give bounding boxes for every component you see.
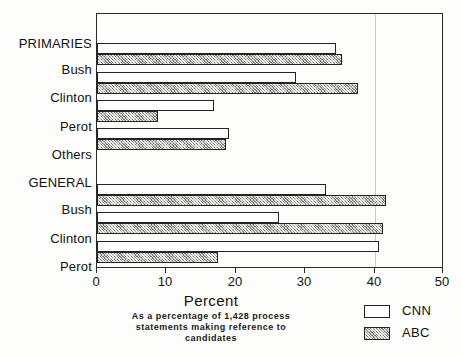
y-label-primaries-perot: Perot (0, 120, 92, 134)
x-ticklabel-10: 10 (145, 274, 185, 289)
bar-primaries-perot-abc (97, 111, 158, 122)
bar-primaries-others-cnn (97, 128, 229, 139)
y-label-general-bush: Bush (0, 203, 92, 217)
x-tick-20 (235, 268, 236, 273)
bar-general-perot-cnn (97, 241, 379, 252)
bar-primaries-bush-cnn (97, 43, 336, 54)
bar-general-bush-cnn (97, 184, 326, 195)
x-ticklabel-30: 30 (284, 274, 324, 289)
legend-swatch-cnn-icon (364, 305, 390, 318)
bar-general-perot-abc (97, 252, 218, 263)
x-tick-30 (304, 268, 305, 273)
legend-label-cnn: CNN (402, 304, 431, 318)
bar-general-clinton-abc (97, 223, 383, 234)
chart-legend: CNN ABC (364, 300, 459, 344)
chart-caption: As a percentage of 1,428 process stateme… (86, 311, 336, 344)
caption-line-3: candidates (86, 333, 336, 344)
y-label-general-perot: Perot (0, 260, 92, 274)
bar-primaries-clinton-abc (97, 83, 358, 94)
x-ticklabel-50: 50 (422, 274, 461, 289)
x-axis: 0 10 20 30 40 50 (96, 268, 443, 274)
x-ticklabel-40: 40 (354, 274, 394, 289)
bar-primaries-others-abc (97, 139, 226, 150)
y-label-primaries-header: PRIMARIES (0, 37, 92, 51)
caption-line-1: As a percentage of 1,428 process (86, 311, 336, 322)
bar-primaries-perot-cnn (97, 100, 214, 111)
x-axis-title: Percent (96, 292, 326, 309)
x-tick-0 (96, 268, 97, 273)
y-label-general-header: GENERAL (0, 176, 92, 190)
chart-figure: PRIMARIES Bush Clinton Perot Others GENE… (0, 0, 461, 356)
x-tick-40 (374, 268, 375, 273)
legend-item-cnn: CNN (364, 300, 459, 322)
bar-primaries-bush-abc (97, 54, 342, 65)
legend-swatch-abc-icon (364, 327, 390, 340)
bar-general-clinton-cnn (97, 212, 279, 223)
y-label-primaries-bush: Bush (0, 63, 92, 77)
y-label-general-clinton: Clinton (0, 232, 92, 246)
legend-item-abc: ABC (364, 322, 459, 344)
bar-general-bush-abc (97, 195, 386, 206)
y-label-primaries-clinton: Clinton (0, 91, 92, 105)
y-axis-labels: PRIMARIES Bush Clinton Perot Others GENE… (0, 13, 92, 268)
y-label-primaries-others: Others (0, 148, 92, 162)
x-tick-10 (165, 268, 166, 273)
legend-label-abc: ABC (402, 326, 430, 340)
x-ticklabel-20: 20 (215, 274, 255, 289)
bar-primaries-clinton-cnn (97, 72, 296, 83)
plot-area (96, 13, 443, 268)
x-ticklabel-0: 0 (76, 274, 116, 289)
x-tick-50 (442, 268, 443, 273)
caption-line-2: statements making reference to (86, 322, 336, 333)
